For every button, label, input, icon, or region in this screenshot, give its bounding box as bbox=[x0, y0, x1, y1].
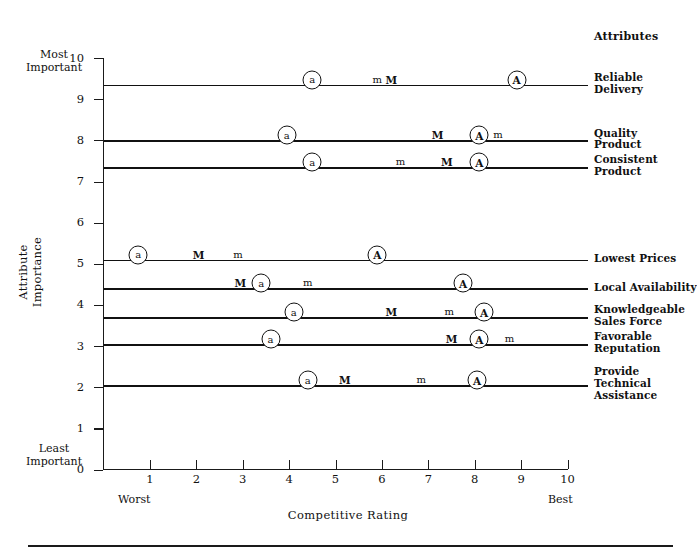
data-marker-A-circled: A bbox=[470, 153, 489, 172]
y-tick-label-10: 10 bbox=[66, 53, 84, 64]
y-tick-label-9: 9 bbox=[66, 94, 84, 105]
y-tick-10 bbox=[94, 58, 103, 59]
data-marker-a-circled: a bbox=[129, 245, 148, 264]
data-marker-m: m bbox=[505, 334, 514, 344]
data-marker-m: m bbox=[493, 130, 502, 140]
data-marker-a-circled: a bbox=[252, 274, 271, 293]
y-tick-label-6: 6 bbox=[66, 217, 84, 228]
x-tick-label-6: 6 bbox=[372, 474, 392, 485]
x-tick-label-8: 8 bbox=[465, 474, 485, 485]
data-marker-m: m bbox=[417, 375, 426, 385]
attribute-label: Local Availability bbox=[594, 282, 697, 294]
y-tick-6 bbox=[94, 223, 103, 224]
y-tick-label-0: 0 bbox=[66, 464, 84, 475]
y-axis-title: Attribute Importance bbox=[16, 212, 44, 332]
data-marker-a-circled: a bbox=[261, 330, 280, 349]
attribute-label: Lowest Prices bbox=[594, 253, 676, 265]
y-tick-label-5: 5 bbox=[66, 258, 84, 269]
y-tick-label-4: 4 bbox=[66, 299, 84, 310]
x-tick-8 bbox=[475, 460, 476, 469]
x-axis-low-label: Worst bbox=[118, 493, 151, 506]
data-marker-a-circled: a bbox=[298, 371, 317, 390]
attribute-label: Consistent Product bbox=[594, 154, 658, 178]
x-tick-label-3: 3 bbox=[233, 474, 253, 485]
y-tick-4 bbox=[94, 305, 103, 306]
y-tick-label-3: 3 bbox=[66, 341, 84, 352]
attribute-label: Favorable Reputation bbox=[594, 331, 661, 355]
x-tick-1 bbox=[150, 460, 151, 469]
data-marker-M: M bbox=[235, 278, 247, 288]
x-tick-3 bbox=[243, 460, 244, 469]
data-marker-a-circled: a bbox=[277, 126, 296, 145]
attribute-row-line bbox=[104, 344, 589, 346]
y-tick-label-8: 8 bbox=[66, 135, 84, 146]
y-tick-label-2: 2 bbox=[66, 382, 84, 393]
y-tick-2 bbox=[94, 387, 103, 388]
data-marker-A-circled: A bbox=[470, 126, 489, 145]
attribute-label: Provide Technical Assistance bbox=[594, 366, 657, 401]
attribute-label: Quality Product bbox=[594, 128, 641, 152]
data-marker-A-circled: A bbox=[454, 274, 473, 293]
x-axis-title: Competitive Rating bbox=[228, 508, 468, 522]
x-tick-label-5: 5 bbox=[326, 474, 346, 485]
x-tick-9 bbox=[521, 460, 522, 469]
data-marker-A-circled: A bbox=[468, 371, 487, 390]
y-tick-label-1: 1 bbox=[66, 423, 84, 434]
data-marker-A-circled: A bbox=[507, 70, 526, 89]
data-marker-M: M bbox=[446, 334, 458, 344]
y-tick-8 bbox=[94, 140, 103, 141]
data-marker-m: m bbox=[303, 278, 312, 288]
data-marker-M: M bbox=[432, 130, 444, 140]
x-tick-label-2: 2 bbox=[186, 474, 206, 485]
data-marker-m: m bbox=[233, 250, 242, 260]
data-marker-M: M bbox=[193, 250, 205, 260]
y-tick-5 bbox=[94, 264, 103, 265]
x-tick-4 bbox=[289, 460, 290, 469]
y-axis-line bbox=[103, 58, 104, 470]
x-axis-high-label: Best bbox=[548, 493, 573, 506]
x-tick-label-4: 4 bbox=[279, 474, 299, 485]
x-tick-2 bbox=[196, 460, 197, 469]
x-tick-label-10: 10 bbox=[558, 474, 578, 485]
data-marker-M: M bbox=[385, 307, 397, 317]
x-tick-7 bbox=[428, 460, 429, 469]
data-marker-A-circled: A bbox=[368, 245, 387, 264]
x-tick-10 bbox=[568, 460, 569, 469]
x-tick-label-7: 7 bbox=[418, 474, 438, 485]
x-tick-6 bbox=[382, 460, 383, 469]
footer-rule bbox=[28, 545, 673, 547]
data-marker-a-circled: a bbox=[303, 153, 322, 172]
data-marker-M: M bbox=[385, 75, 397, 85]
data-marker-m: m bbox=[396, 157, 405, 167]
attribute-row-line bbox=[104, 288, 589, 290]
attribute-row-line bbox=[104, 317, 589, 319]
data-marker-M: M bbox=[441, 157, 453, 167]
attribute-row-line bbox=[104, 167, 589, 169]
data-marker-A-circled: A bbox=[475, 303, 494, 322]
chart-page: Most Important Least Important Attribute… bbox=[0, 0, 697, 556]
data-marker-m: m bbox=[444, 307, 453, 317]
y-tick-1 bbox=[94, 428, 103, 429]
y-tick-7 bbox=[94, 182, 103, 183]
data-marker-A-circled: A bbox=[470, 330, 489, 349]
y-tick-label-7: 7 bbox=[66, 176, 84, 187]
attribute-label: Knowledgeable Sales Force bbox=[594, 304, 685, 328]
data-marker-M: M bbox=[339, 375, 351, 385]
attribute-row-line bbox=[104, 260, 589, 262]
x-tick-label-9: 9 bbox=[511, 474, 531, 485]
attribute-row-line bbox=[104, 140, 589, 142]
data-marker-a-circled: a bbox=[284, 303, 303, 322]
attribute-label: Reliable Delivery bbox=[594, 72, 643, 96]
x-tick-label-1: 1 bbox=[140, 474, 160, 485]
data-marker-m: m bbox=[373, 75, 382, 85]
data-marker-a-circled: a bbox=[303, 70, 322, 89]
x-tick-5 bbox=[336, 460, 337, 469]
x-axis-line bbox=[103, 469, 568, 470]
y-tick-9 bbox=[94, 99, 103, 100]
y-tick-3 bbox=[94, 346, 103, 347]
attributes-header: Attributes bbox=[594, 30, 658, 43]
y-tick-0 bbox=[94, 470, 103, 471]
